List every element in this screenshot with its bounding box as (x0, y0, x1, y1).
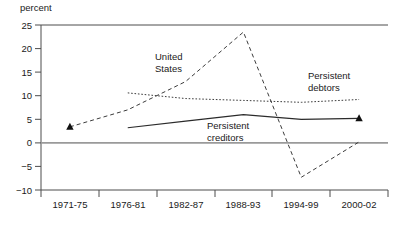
united-states-label-line2: States (155, 63, 182, 74)
x-tick-label-1971-75: 1971-75 (53, 199, 88, 210)
x-tick-label-2000-02: 2000-02 (342, 199, 377, 210)
chart-container: percent 25 20 15 10 5 0 −5 −10 (0, 0, 403, 226)
persistent-debtors-label-line1: Persistent (308, 70, 351, 81)
series-marker-triangle (355, 114, 362, 121)
x-tick-label-1994-99: 1994-99 (284, 199, 319, 210)
series-line-persistent-debtors (128, 93, 359, 102)
y-tick-label-25: 25 (21, 20, 32, 31)
y-tick-label-5: 5 (27, 114, 32, 125)
y-tick-label-20: 20 (21, 43, 32, 54)
y-tick-label-neg5: −5 (21, 161, 32, 172)
x-tick-label-1976-81: 1976-81 (111, 199, 146, 210)
persistent-debtors-label-line2: debtors (308, 82, 340, 93)
y-tick-label-neg10: −10 (16, 185, 32, 196)
x-tick-label-1982-87: 1982-87 (169, 199, 204, 210)
y-tick-label-15: 15 (21, 67, 32, 78)
x-axis-ticks (41, 190, 388, 197)
persistent-creditors-label-line2: creditors (207, 132, 244, 143)
y-tick-label-10: 10 (21, 90, 32, 101)
united-states-label-line1: United (155, 51, 182, 62)
y-axis-ticks (35, 25, 41, 190)
y-tick-label-0: 0 (27, 137, 32, 148)
x-tick-label-1988-93: 1988-93 (226, 199, 261, 210)
plot-frame (41, 25, 388, 190)
line-chart-plot: 25 20 15 10 5 0 −5 −10 1971-75 1976-81 1… (0, 0, 403, 226)
persistent-creditors-label-line1: Persistent (207, 120, 250, 131)
series-line-united-states (70, 32, 359, 177)
